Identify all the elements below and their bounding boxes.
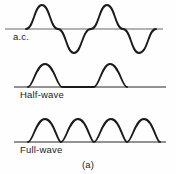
- full-wave-waveform-trace: [28, 119, 160, 142]
- rectification-waveform-figure: a.c. Half-wave Full-wave (a): [0, 0, 176, 174]
- half-wave-waveform-trace: [28, 64, 127, 87]
- half-wave-label: Half-wave: [20, 90, 64, 100]
- figure-caption: (a): [0, 160, 176, 170]
- ac-label: a.c.: [13, 32, 29, 42]
- panel-half-wave: [14, 64, 166, 87]
- panel-full-wave: [14, 119, 166, 142]
- full-wave-label: Full-wave: [20, 145, 62, 155]
- panel-ac: [5, 5, 163, 53]
